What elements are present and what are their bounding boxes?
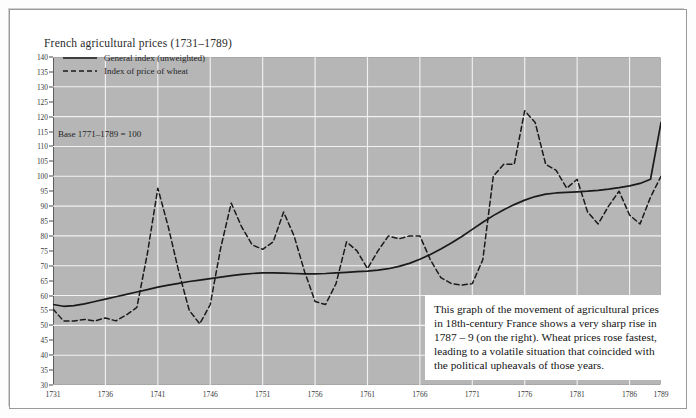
y-axis-tick-label: 80 <box>26 231 48 240</box>
legend-label-wheat: Index of price of wheat <box>104 66 188 76</box>
x-axis-tick-label: 1756 <box>307 390 322 399</box>
legend-item-general: General index (unweighted) <box>62 52 205 64</box>
legend-item-wheat: Index of price of wheat <box>62 65 205 77</box>
chart-caption: This graph of the movement of agricultur… <box>425 295 675 380</box>
x-axis-tick-label: 1789 <box>653 390 668 399</box>
x-axis-tick-label: 1771 <box>465 390 480 399</box>
y-axis-tick-label: 30 <box>26 381 48 390</box>
y-axis-tick-mark <box>49 310 53 311</box>
y-axis-tick-mark <box>49 325 53 326</box>
y-axis-tick-label: 105 <box>26 157 48 166</box>
y-axis-tick-mark <box>49 86 53 87</box>
chart-title: French agricultural prices (1731–1789) <box>44 37 232 49</box>
y-axis-tick-label: 75 <box>26 246 48 255</box>
y-axis-tick-label: 50 <box>26 321 48 330</box>
y-axis-tick-label: 90 <box>26 202 48 211</box>
y-axis-tick-mark <box>49 146 53 147</box>
y-axis-tick-mark <box>49 355 53 356</box>
y-axis-tick-label: 120 <box>26 112 48 121</box>
base-note: Base 1771–1789 = 100 <box>58 129 141 139</box>
y-axis-tick-label: 60 <box>26 291 48 300</box>
y-axis-tick-label: 70 <box>26 261 48 270</box>
y-axis-tick-mark <box>49 385 53 386</box>
y-axis-tick-mark <box>49 191 53 192</box>
x-axis-tick-label: 1776 <box>517 390 532 399</box>
y-axis-tick-mark <box>49 71 53 72</box>
chart-page: French agricultural prices (1731–1789) 1… <box>0 0 696 418</box>
y-axis-tick-mark <box>49 57 53 58</box>
legend-key-solid-icon <box>62 53 98 63</box>
y-axis-tick-mark <box>49 221 53 222</box>
y-axis-tick-label: 35 <box>26 366 48 375</box>
y-axis-tick-mark <box>49 206 53 207</box>
y-axis-tick-label: 55 <box>26 306 48 315</box>
y-axis-tick-mark <box>49 101 53 102</box>
legend-label-general: General index (unweighted) <box>104 53 205 63</box>
y-axis-tick-mark <box>49 250 53 251</box>
y-axis-tick-label: 40 <box>26 351 48 360</box>
x-axis-tick-label: 1731 <box>45 390 60 399</box>
y-axis-tick-label: 115 <box>26 127 48 136</box>
y-axis-tick-mark <box>49 280 53 281</box>
legend-key-dashed-icon <box>62 66 98 76</box>
x-axis-tick-label: 1751 <box>255 390 270 399</box>
y-axis-tick-mark <box>49 265 53 266</box>
y-axis-tick-mark <box>49 340 53 341</box>
x-axis-tick-label: 1786 <box>622 390 637 399</box>
y-axis-tick-label: 100 <box>26 172 48 181</box>
y-axis-tick-label: 130 <box>26 82 48 91</box>
y-axis-tick-label: 85 <box>26 217 48 226</box>
y-axis-tick-label: 135 <box>26 67 48 76</box>
x-axis-tick-label: 1746 <box>203 390 218 399</box>
y-axis-tick-label: 140 <box>26 53 48 62</box>
y-axis-tick-mark <box>49 161 53 162</box>
y-axis-tick-label: 65 <box>26 276 48 285</box>
chart-legend: General index (unweighted) Index of pric… <box>58 50 209 80</box>
y-axis-tick-mark <box>49 370 53 371</box>
y-axis-tick-mark <box>49 176 53 177</box>
page-frame: French agricultural prices (1731–1789) 1… <box>9 9 687 409</box>
x-axis-tick-label: 1741 <box>150 390 165 399</box>
y-axis-tick-label: 125 <box>26 97 48 106</box>
x-axis-tick-label: 1761 <box>360 390 375 399</box>
y-axis-tick-label: 95 <box>26 187 48 196</box>
y-axis-tick-mark <box>49 235 53 236</box>
y-axis-tick-mark <box>49 131 53 132</box>
y-axis-tick-mark <box>49 295 53 296</box>
y-axis-tick-mark <box>49 116 53 117</box>
x-axis-tick-label: 1781 <box>570 390 585 399</box>
y-axis-tick-label: 110 <box>26 142 48 151</box>
x-axis-tick-label: 1736 <box>98 390 113 399</box>
x-axis-tick-label: 1766 <box>412 390 427 399</box>
y-axis-tick-label: 45 <box>26 336 48 345</box>
